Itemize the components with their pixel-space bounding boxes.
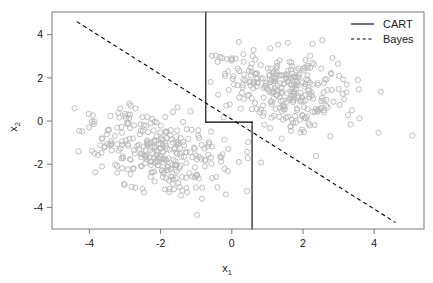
y-tick-label: 4 — [37, 28, 43, 40]
y-tick-label: -2 — [34, 158, 43, 170]
y-tick-label: -4 — [34, 201, 43, 213]
x-tick-label: 4 — [371, 237, 377, 249]
plot-canvas: -4-2024 -4-2024 x1 x2 CARTBayes — [0, 0, 433, 283]
x-tick-label: 2 — [300, 237, 306, 249]
x-tick-label: -2 — [156, 237, 165, 249]
x-tick-label: -4 — [85, 237, 94, 249]
legend-label-cart: CART — [383, 18, 413, 30]
figure-background — [0, 0, 433, 283]
scatter-plot-figure: -4-2024 -4-2024 x1 x2 CARTBayes — [0, 0, 433, 283]
y-tick-label: 2 — [37, 72, 43, 84]
x-tick-label: 0 — [229, 237, 235, 249]
legend-label-bayes: Bayes — [383, 33, 414, 45]
y-tick-label: 0 — [37, 115, 43, 127]
